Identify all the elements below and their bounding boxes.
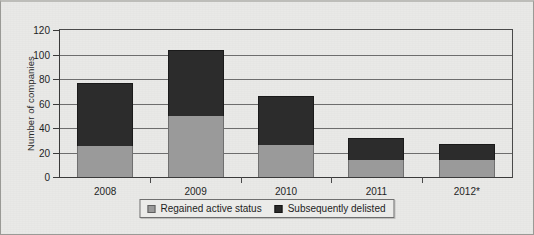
y-axis-tick — [53, 55, 60, 56]
x-axis-tick-label: 2009 — [184, 186, 206, 197]
legend-item-regained-active-status: Regained active status — [147, 203, 261, 214]
y-axis-tick — [53, 128, 60, 129]
x-axis-tick-label: 2011 — [366, 186, 388, 197]
y-axis-tick-label: 100 — [33, 49, 50, 60]
legend-label-regained-active-status: Regained active status — [160, 203, 261, 214]
bar-segment-subsequently-delisted — [168, 50, 224, 116]
x-axis-tick-label: 2008 — [94, 186, 116, 197]
legend-swatch-regained-active-status — [147, 205, 155, 213]
y-axis-tick — [53, 79, 60, 80]
y-axis-tick — [53, 30, 60, 31]
y-axis-tick-label: 80 — [39, 74, 50, 85]
x-axis-tick — [241, 177, 242, 183]
x-axis-tick-label: 2010 — [275, 186, 297, 197]
y-axis-tick-label: 20 — [39, 147, 50, 158]
bar-segment-subsequently-delisted — [258, 96, 314, 145]
bar-segment-subsequently-delisted — [348, 138, 404, 160]
y-axis-tick-label: 40 — [39, 123, 50, 134]
legend-label-subsequently-delisted: Subsequently delisted — [288, 203, 386, 214]
legend-item-subsequently-delisted: Subsequently delisted — [275, 203, 386, 214]
y-axis-tick-label: 0 — [44, 172, 50, 183]
bar-segment-regained-active-status — [77, 146, 133, 177]
y-gridline — [60, 55, 512, 56]
x-axis-tick — [422, 177, 423, 183]
bar-segment-regained-active-status — [348, 160, 404, 177]
x-axis-tick — [331, 177, 332, 183]
x-axis-tick — [150, 177, 151, 183]
y-axis-tick-label: 60 — [39, 98, 50, 109]
bar-stack — [168, 50, 224, 177]
chart-figure: Number of companies 02040608010012020082… — [0, 0, 534, 235]
y-axis-tick — [53, 153, 60, 154]
y-gridline — [60, 79, 512, 80]
bar-stack — [439, 144, 495, 177]
y-axis-tick — [53, 104, 60, 105]
bar-stack — [77, 83, 133, 177]
bar-segment-subsequently-delisted — [77, 83, 133, 147]
plot-area: 02040608010012020082009201020112012* — [59, 29, 513, 178]
x-axis-tick-label: 2012* — [454, 186, 480, 197]
bar-segment-regained-active-status — [168, 116, 224, 177]
bar-stack — [348, 138, 404, 177]
chart-legend: Regained active status Subsequently deli… — [139, 199, 394, 218]
bar-segment-regained-active-status — [258, 145, 314, 177]
legend-swatch-subsequently-delisted — [275, 205, 283, 213]
y-axis-tick — [53, 177, 60, 178]
bar-stack — [258, 96, 314, 177]
bar-segment-subsequently-delisted — [439, 144, 495, 160]
y-axis-tick-label: 120 — [33, 25, 50, 36]
bar-segment-regained-active-status — [439, 160, 495, 177]
